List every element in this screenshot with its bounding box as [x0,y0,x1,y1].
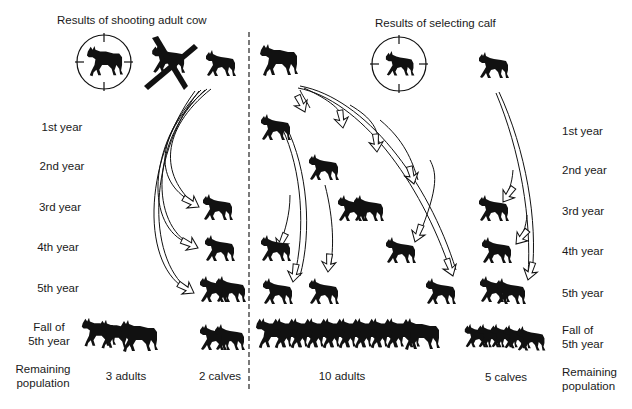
result-right-adults: 10 adults [302,369,382,383]
adult-moose-icon [260,44,298,76]
crossed-out-calf-icon [144,36,198,90]
row-label-fall-right: Fall of 5th year [562,323,632,351]
row-label-4th-year-right: 4th year [562,244,632,258]
row-label-fall-left: Fall of 5th year [14,320,84,348]
row-label-2nd-year-right: 2nd year [562,163,632,177]
calf-moose-icon [205,235,235,261]
result-right-calves: 5 calves [476,370,536,384]
calf-moose-icon [263,278,293,304]
calf-moose-icon [261,114,291,140]
calf-herd [465,324,546,351]
row-label-remaining-right: Remaining population [562,365,632,393]
calf-moose-icon [309,278,339,304]
calf-moose-icon [479,52,509,78]
row-label-2nd-year-left: 2nd year [27,159,97,173]
moose-population-diagram: Results of shooting adult cow Results of… [0,0,632,409]
calf-moose-icon [386,51,415,76]
right-title: Results of selecting calf [375,17,496,29]
row-label-5th-year-right: 5th year [562,286,632,300]
calf-moose-icon [482,237,512,263]
calf-moose-icon [426,278,456,304]
arrow-icon [154,89,211,292]
adult-herd [256,318,440,350]
calf-moose-icon [309,154,339,180]
row-label-3rd-year-left: 3rd year [25,200,95,214]
calf-moose-icon [206,50,236,76]
adult-moose-icon [87,46,123,76]
row-label-remaining-left: Remaining population [8,362,78,390]
row-label-1st-year-left: 1st year [27,120,97,134]
row-label-4th-year-left: 4th year [23,240,93,254]
result-left-calves: 2 calves [190,369,250,383]
left-title: Results of shooting adult cow [57,14,207,26]
row-label-5th-year-left: 5th year [23,281,93,295]
row-label-1st-year-right: 1st year [562,124,632,138]
row-label-3rd-year-right: 3rd year [562,204,632,218]
calf-moose-icon [386,237,416,263]
result-left-adults: 3 adults [96,369,156,383]
calf-moose-icon [203,194,233,220]
